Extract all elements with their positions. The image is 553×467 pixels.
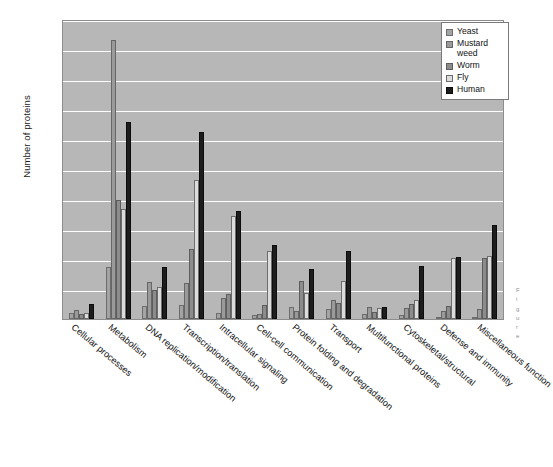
caption-line: e [516, 332, 532, 341]
bar-group [283, 21, 320, 319]
caption-line: r [516, 323, 532, 332]
x-axis-tick-labels: Cellular processesMetabolismDNA replicat… [62, 322, 504, 452]
bar-group [320, 21, 357, 319]
legend-item-label: Fly [457, 73, 468, 82]
bar-group [100, 21, 137, 319]
legend-item-label: Worm [457, 61, 480, 70]
legend-swatch-icon [446, 87, 453, 94]
legend-swatch-icon [446, 29, 453, 36]
bar [272, 245, 277, 319]
legend-item-label: Yeast [457, 27, 478, 36]
bar [382, 307, 387, 319]
legend-item-label: Human [457, 85, 485, 94]
bar [236, 211, 241, 319]
bar-groups [63, 21, 503, 319]
bar [199, 132, 204, 319]
x-axis-tick-label: Defense and immunity [438, 322, 514, 388]
legend-item: Fly [446, 73, 504, 82]
legend-swatch-icon [446, 63, 453, 70]
caption-line: i [516, 295, 532, 304]
caption-line: g [516, 305, 532, 314]
bar [419, 266, 424, 319]
bar-group [210, 21, 247, 319]
plot-area [62, 20, 504, 320]
bar-group [393, 21, 430, 319]
legend-swatch-icon [446, 41, 453, 48]
bar [456, 257, 461, 319]
legend-item: Worm [446, 61, 504, 70]
caption-line: F [516, 286, 532, 295]
bar-group [356, 21, 393, 319]
bar [492, 225, 497, 319]
x-axis-tick-label: Intracellular signaling [217, 322, 290, 385]
legend-swatch-icon [446, 75, 453, 82]
legend-item: Yeast [446, 27, 504, 36]
bar-group [63, 21, 100, 319]
x-axis-tick-label: Cytoskeletal/structural [401, 322, 477, 388]
bar [89, 304, 94, 319]
bar-group [173, 21, 210, 319]
legend-item: Mustard weed [446, 39, 504, 58]
bar [346, 251, 351, 319]
caption-line: u [516, 314, 532, 323]
x-axis-tick-label: Cellular processes [70, 322, 134, 378]
bar [309, 269, 314, 319]
x-axis-tick-label: Transport [328, 322, 364, 355]
figure-caption-sliver: Figure [516, 286, 532, 378]
bar-group [246, 21, 283, 319]
bar [162, 267, 167, 319]
bar-group [136, 21, 173, 319]
bar [126, 122, 131, 319]
legend: YeastMustard weedWormFlyHuman [441, 22, 509, 100]
y-axis-title: Number of proteins [21, 57, 32, 217]
legend-item: Human [446, 85, 504, 94]
legend-item-label: Mustard weed [457, 39, 504, 58]
